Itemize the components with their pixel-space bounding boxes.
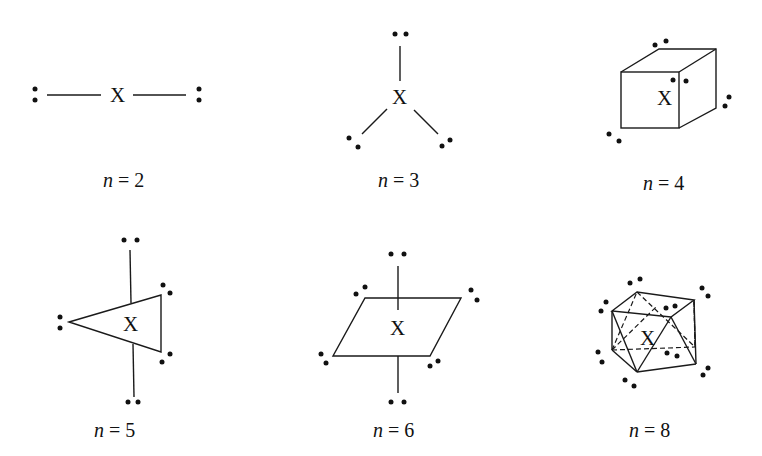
panel-label-n2: n = 2 <box>103 169 144 191</box>
panel-label-n8: n = 8 <box>629 419 670 441</box>
panel-n6: X n = 6 <box>319 252 480 442</box>
central-atom-label: X <box>392 85 407 109</box>
panel-label-n6: n = 6 <box>373 419 414 441</box>
electron-pair-geometry-diagram: X n = 2 X n = 3 X n = 4 X n <box>0 0 762 456</box>
central-atom-label: X <box>640 326 655 350</box>
panel-n8: X n = 8 <box>596 277 711 442</box>
panel-label-n4: n = 4 <box>643 172 684 194</box>
central-atom-label: X <box>110 83 125 107</box>
central-atom-label: X <box>657 86 672 110</box>
panel-label-n3: n = 3 <box>378 169 419 191</box>
panel-n2: X n = 2 <box>33 83 202 191</box>
central-atom-label: X <box>123 312 138 336</box>
panel-label-n5: n = 5 <box>94 419 135 441</box>
panel-n4: X n = 4 <box>607 39 732 195</box>
central-atom-label: X <box>390 316 405 340</box>
panel-n3: X n = 3 <box>347 32 453 192</box>
panel-n5: X n = 5 <box>58 238 173 442</box>
